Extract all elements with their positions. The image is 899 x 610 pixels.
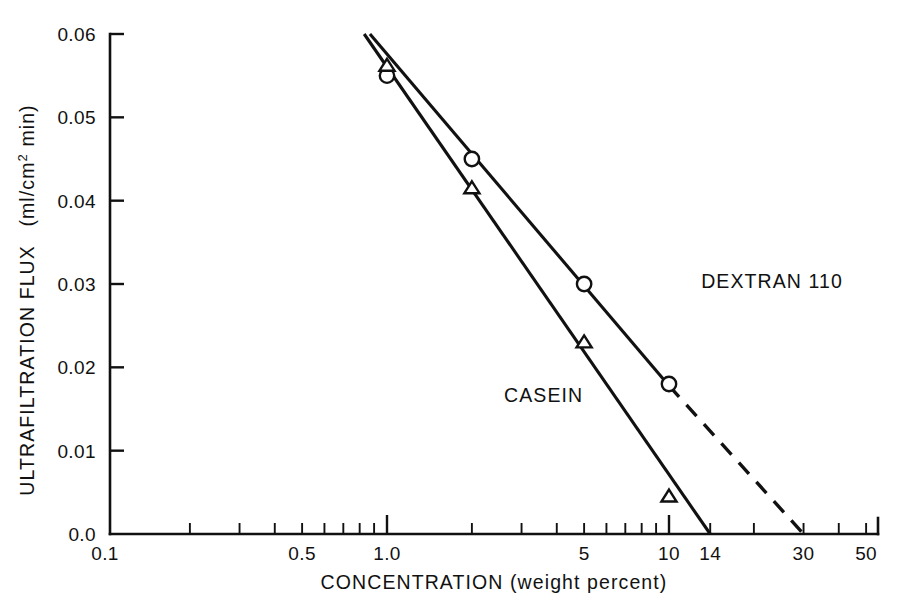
series-annotation: DEXTRAN 110	[701, 270, 843, 292]
x-tick-label: 0.5	[288, 543, 316, 564]
y-axis-title-units: (ml/cm	[16, 161, 38, 226]
y-axis-ticks	[110, 34, 124, 451]
series-annotation: CASEIN	[504, 384, 583, 406]
data-point-marker-circle	[577, 277, 591, 291]
series-line-dashed-circle	[669, 386, 804, 534]
x-tick-label: 0.1	[91, 543, 119, 564]
series-line-circle	[370, 34, 669, 386]
y-tick-label: 0.05	[57, 107, 96, 128]
x-axis-tick-labels: 0.10.51.0510143050	[91, 543, 877, 564]
data-point-marker-triangle	[577, 335, 592, 347]
y-axis-title-units-sup: 2	[15, 153, 30, 161]
y-axis-title-main: ULTRAFILTRATION FLUX	[16, 245, 38, 496]
y-axis-tick-labels: 0.00.010.020.030.040.050.06	[57, 24, 96, 545]
x-axis-title-text: CONCENTRATION (weight percent)	[321, 571, 668, 593]
x-tick-label: 30	[793, 543, 815, 564]
x-tick-label: 14	[699, 543, 721, 564]
y-tick-label: 0.01	[57, 441, 96, 462]
y-tick-label: 0.04	[57, 191, 96, 212]
y-tick-label: 0.0	[68, 524, 96, 545]
x-tick-label: 5	[579, 543, 590, 564]
figure-root: 0.00.010.020.030.040.050.06 0.10.51.0510…	[0, 0, 899, 610]
data-point-marker-triangle	[661, 490, 676, 502]
ultrafiltration-flux-chart: 0.00.010.020.030.040.050.06 0.10.51.0510…	[0, 0, 899, 610]
y-tick-label: 0.06	[57, 24, 96, 45]
x-axis: 0.10.51.0510143050	[91, 515, 878, 564]
y-axis-title-units-tail: min)	[16, 104, 38, 153]
x-axis-ticks	[190, 515, 866, 534]
y-tick-label: 0.03	[57, 274, 96, 295]
x-tick-label: 10	[658, 543, 680, 564]
y-axis-title-text: ULTRAFILTRATION FLUX (ml/cm2 min)	[15, 104, 39, 495]
x-tick-label: 1.0	[373, 543, 401, 564]
data-point-marker-circle	[662, 377, 676, 391]
data-markers-group	[379, 59, 676, 502]
y-axis: 0.00.010.020.030.040.050.06	[57, 24, 124, 545]
series-line-triangle	[364, 34, 710, 534]
y-tick-label: 0.02	[57, 357, 96, 378]
y-axis-title: ULTRAFILTRATION FLUX (ml/cm2 min)	[15, 104, 39, 495]
data-point-marker-circle	[465, 152, 479, 166]
x-tick-label: 50	[855, 543, 877, 564]
x-axis-title: CONCENTRATION (weight percent)	[321, 571, 668, 593]
